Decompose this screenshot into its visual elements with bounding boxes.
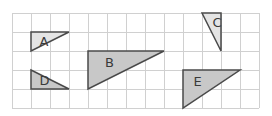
triangle-label: B <box>105 55 114 70</box>
triangle-grid-diagram: ABCDE <box>0 0 272 116</box>
triangle-label: E <box>193 74 201 89</box>
triangle-label: C <box>212 15 221 30</box>
shapes: ABCDE <box>31 13 240 108</box>
triangle-label: D <box>40 73 50 88</box>
triangle-label: A <box>40 34 49 49</box>
